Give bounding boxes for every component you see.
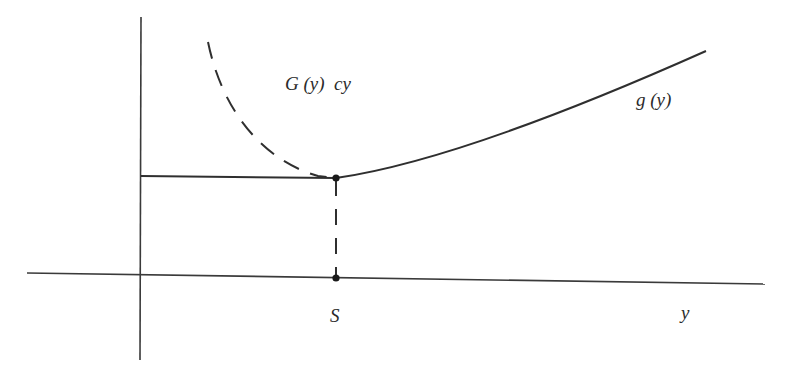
vertical-axis	[140, 17, 141, 360]
label-g-of-y: g (y)	[636, 89, 671, 111]
point-S-on-axis	[332, 274, 339, 281]
label-y-axis: y	[679, 302, 690, 323]
flat-segment	[141, 176, 336, 178]
label-S: S	[330, 305, 340, 326]
g-curve	[336, 51, 706, 178]
point-S-on-curve	[332, 174, 339, 181]
horizontal-axis	[27, 273, 765, 284]
diagram-canvas: G (y) cy g (y) S y	[0, 0, 787, 383]
G-minus-cy-dashed-curve	[208, 42, 336, 178]
label-G-minus-cy: G (y) cy	[285, 73, 351, 95]
